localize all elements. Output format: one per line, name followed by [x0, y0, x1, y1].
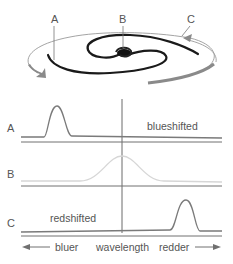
spectra-panels: A blueshifted B C redshifted: [7, 99, 222, 236]
panel-a-label: A: [7, 122, 15, 134]
galaxy-label-a: A: [51, 13, 59, 25]
doppler-diagram: A B C A blueshifted B C redshifted bluer…: [0, 0, 233, 264]
orbit-arrow-left-icon: [28, 64, 46, 78]
arrow-right-icon: [213, 244, 221, 250]
pointer-c: [182, 26, 190, 36]
wavelength-axis: bluer wavelength redder: [22, 241, 221, 253]
spiral-arm-inner: [88, 35, 198, 58]
panel-c-annotation: redshifted: [50, 212, 96, 224]
arrow-left-icon: [22, 244, 30, 250]
orbit-arc-bottom: [148, 64, 214, 83]
galaxy-label-c: C: [187, 13, 195, 25]
panel-a-annotation: blueshifted: [147, 120, 198, 132]
galaxy-illustration: A B C: [28, 13, 216, 83]
axis-label-redder: redder: [159, 241, 190, 253]
spiral-arm-outer: [48, 51, 166, 74]
axis-label-wavelength: wavelength: [95, 241, 149, 253]
panel-c-label: C: [7, 217, 15, 229]
panel-b-label: B: [7, 168, 14, 180]
axis-label-bluer: bluer: [55, 241, 79, 253]
panel-b-spectrum: [21, 156, 222, 182]
galaxy-label-b: B: [119, 13, 126, 25]
